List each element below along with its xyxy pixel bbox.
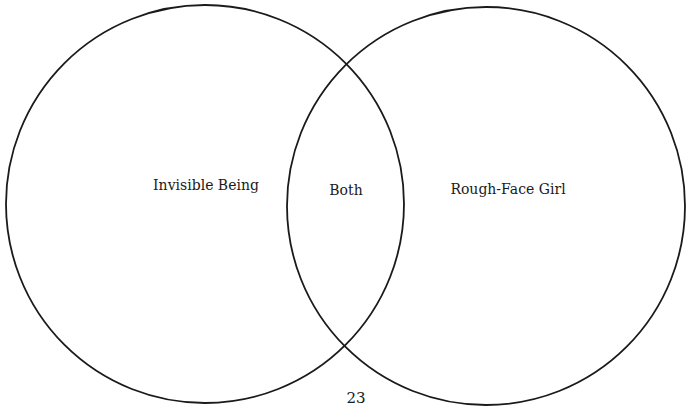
right-circle (287, 7, 685, 405)
left-circle (6, 5, 404, 403)
venn-diagram-page: Invisible Being Both Rough-Face Girl 23 (0, 0, 691, 414)
venn-diagram (0, 0, 691, 414)
right-circle-label: Rough-Face Girl (450, 182, 565, 196)
page-number: 23 (346, 391, 365, 406)
overlap-label: Both (329, 183, 362, 197)
left-circle-label: Invisible Being (153, 178, 259, 192)
